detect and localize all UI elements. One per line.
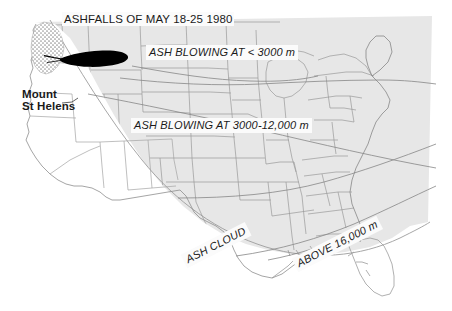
label-volcano-line1: Mount <box>22 88 57 100</box>
ashfall-map: ASHFALLS OF MAY 18-25 1980 ASH BLOWING A… <box>0 0 452 311</box>
label-volcano-line2: St Helens <box>22 100 75 112</box>
label-ash-blowing-mid: ASH BLOWING AT 3000-12,000 m <box>131 118 312 133</box>
label-ash-blowing-low: ASH BLOWING AT < 3000 m <box>146 45 298 60</box>
map-title: ASHFALLS OF MAY 18-25 1980 <box>62 12 234 26</box>
stipple-ashfall-zone <box>31 22 64 74</box>
